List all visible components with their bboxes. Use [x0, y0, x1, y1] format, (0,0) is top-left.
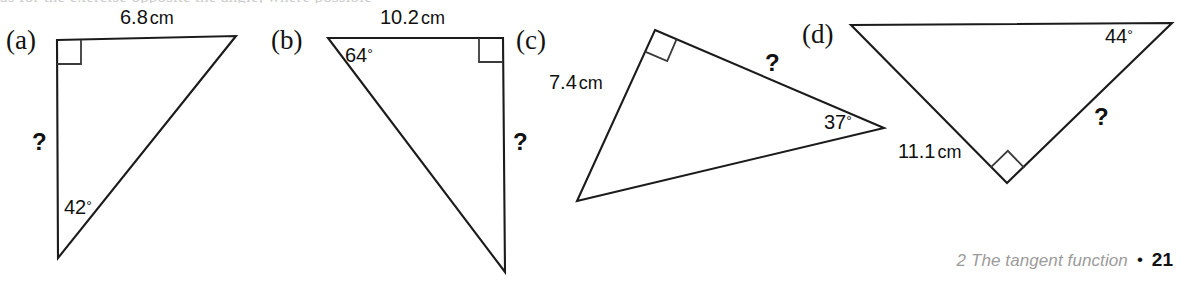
- right-angle-marker-d: [991, 151, 1025, 168]
- footer-chapter-title: 2 The tangent function: [957, 251, 1128, 271]
- angle-label-d: 44°: [1105, 26, 1133, 46]
- angle-d-value: 44: [1105, 25, 1127, 47]
- triangle-d-figure: [0, 0, 1191, 281]
- part-label-d: (d): [802, 21, 833, 48]
- page-footer: 2 The tangent function • 21: [957, 249, 1173, 271]
- footer-page-number: 21: [1152, 249, 1173, 271]
- side-length-d-left-unit: cm: [937, 142, 961, 162]
- page-canvas: as for the exercise opposite the angle, …: [0, 0, 1191, 281]
- side-length-d-left-value: 11.1: [898, 140, 935, 162]
- side-length-d-left: 11.1cm: [898, 141, 961, 161]
- degree-symbol-d: °: [1127, 27, 1133, 43]
- footer-bullet-icon: •: [1137, 251, 1143, 268]
- unknown-side-d-right: ?: [1094, 105, 1109, 129]
